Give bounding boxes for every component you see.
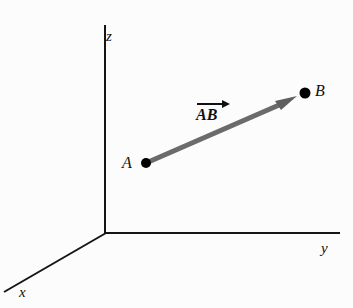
vector-ab-label-text: AB: [196, 107, 231, 123]
y-axis-label: y: [321, 241, 328, 256]
point-b-dot: [300, 88, 311, 99]
vector-ab-label: AB: [196, 99, 231, 123]
axis-group: [4, 25, 340, 292]
point-a-label: A: [122, 155, 132, 171]
overline-bar: [197, 103, 225, 105]
vector-diagram-figure: z y x A B AB: [0, 0, 353, 308]
figure-canvas: [0, 0, 353, 308]
overline-arrow-icon: [197, 99, 231, 107]
overline-arrowhead: [222, 100, 230, 108]
z-axis-label: z: [106, 29, 112, 44]
point-b-label: B: [315, 83, 325, 99]
x-axis-label: x: [19, 285, 26, 300]
point-a-dot: [141, 158, 151, 168]
